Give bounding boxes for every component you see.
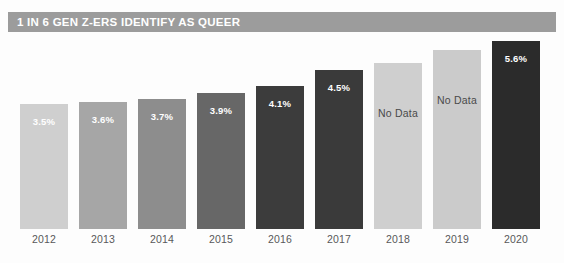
bar-2019[interactable]: No Data bbox=[433, 50, 481, 229]
bar-rect-2014: 3.7% bbox=[138, 99, 186, 229]
page-title: 1 IN 6 GEN Z-ERS IDENTIFY AS QUEER bbox=[8, 16, 240, 28]
x-axis-label-2017: 2017 bbox=[315, 233, 363, 245]
bar-rect-2018: No Data bbox=[374, 63, 422, 229]
bar-rect-2020: 5.6% bbox=[492, 41, 540, 229]
chart-container: 1 IN 6 GEN Z-ERS IDENTIFY AS QUEER 3.5%3… bbox=[0, 0, 564, 263]
bar-2016[interactable]: 4.1% bbox=[256, 86, 304, 229]
x-axis-label-2014: 2014 bbox=[138, 233, 186, 245]
bar-value-label-2017: 4.5% bbox=[328, 82, 350, 229]
plot-area: 3.5%3.6%3.7%3.9%4.1%4.5%No DataNo Data5.… bbox=[0, 34, 564, 263]
bar-value-label-2015: 3.9% bbox=[210, 105, 232, 229]
bar-rect-2017: 4.5% bbox=[315, 70, 363, 229]
x-axis-label-2016: 2016 bbox=[256, 233, 304, 245]
bar-2013[interactable]: 3.6% bbox=[79, 102, 127, 229]
bar-value-label-2013: 3.6% bbox=[92, 114, 114, 229]
bar-rect-2012: 3.5% bbox=[20, 104, 68, 229]
chart-title-banner: 1 IN 6 GEN Z-ERS IDENTIFY AS QUEER bbox=[8, 12, 556, 32]
x-axis-label-2013: 2013 bbox=[79, 233, 127, 245]
bar-rect-2016: 4.1% bbox=[256, 86, 304, 229]
bar-rect-2013: 3.6% bbox=[79, 102, 127, 229]
bar-2015[interactable]: 3.9% bbox=[197, 93, 245, 229]
bar-rect-2019: No Data bbox=[433, 50, 481, 229]
bar-no-data-label-2018: No Data bbox=[378, 107, 418, 229]
bar-no-data-label-2019: No Data bbox=[437, 94, 477, 229]
x-axis-label-2019: 2019 bbox=[433, 233, 481, 245]
bar-2014[interactable]: 3.7% bbox=[138, 99, 186, 229]
bar-series: 3.5%3.6%3.7%3.9%4.1%4.5%No DataNo Data5.… bbox=[20, 34, 544, 229]
bar-2012[interactable]: 3.5% bbox=[20, 104, 68, 229]
x-axis-label-2012: 2012 bbox=[20, 233, 68, 245]
bar-2020[interactable]: 5.6% bbox=[492, 41, 540, 229]
bar-2018[interactable]: No Data bbox=[374, 63, 422, 229]
x-axis-label-2015: 2015 bbox=[197, 233, 245, 245]
bar-value-label-2014: 3.7% bbox=[151, 111, 173, 229]
bar-2017[interactable]: 4.5% bbox=[315, 70, 363, 229]
x-axis: 201220132014201520162017201820192020 bbox=[20, 233, 544, 263]
bar-value-label-2016: 4.1% bbox=[269, 98, 291, 229]
x-axis-label-2018: 2018 bbox=[374, 233, 422, 245]
bar-rect-2015: 3.9% bbox=[197, 93, 245, 229]
bar-value-label-2012: 3.5% bbox=[33, 116, 55, 229]
x-axis-label-2020: 2020 bbox=[492, 233, 540, 245]
bar-value-label-2020: 5.6% bbox=[505, 53, 527, 229]
